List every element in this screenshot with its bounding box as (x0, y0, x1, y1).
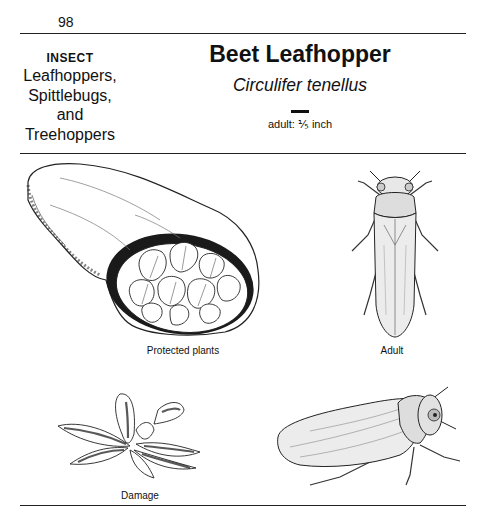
group-line: Spittlebugs, (10, 86, 130, 106)
common-name: Beet Leafhopper (160, 40, 440, 68)
category-label: INSECT (10, 50, 130, 66)
group-line: and (10, 105, 130, 125)
scientific-name: Circulifer tenellus (160, 74, 440, 96)
scale-bar (291, 110, 309, 113)
group-line: Treehoppers (10, 125, 130, 145)
damaged-beet-plant-illustration (50, 390, 210, 480)
row-cover-with-beet-plants-illustration (20, 160, 270, 340)
caption-adult: Adult (362, 345, 422, 357)
title-block: Beet Leafhopper Circulifer tenellus adul… (160, 40, 440, 130)
group-line: Leafhoppers, (10, 66, 130, 86)
header-rule (20, 153, 466, 154)
leafhopper-side-view-illustration (270, 385, 470, 490)
bottom-rule (20, 505, 466, 506)
top-rule (20, 33, 466, 34)
leafhopper-dorsal-view-illustration (340, 165, 450, 345)
caption-damage: Damage (110, 490, 170, 502)
category-block: INSECT Leafhoppers, Spittlebugs, and Tre… (10, 50, 130, 144)
page-number: 98 (58, 14, 74, 30)
caption-protected-plants: Protected plants (120, 345, 246, 357)
size-label: adult: ⅕ inch (160, 118, 440, 130)
